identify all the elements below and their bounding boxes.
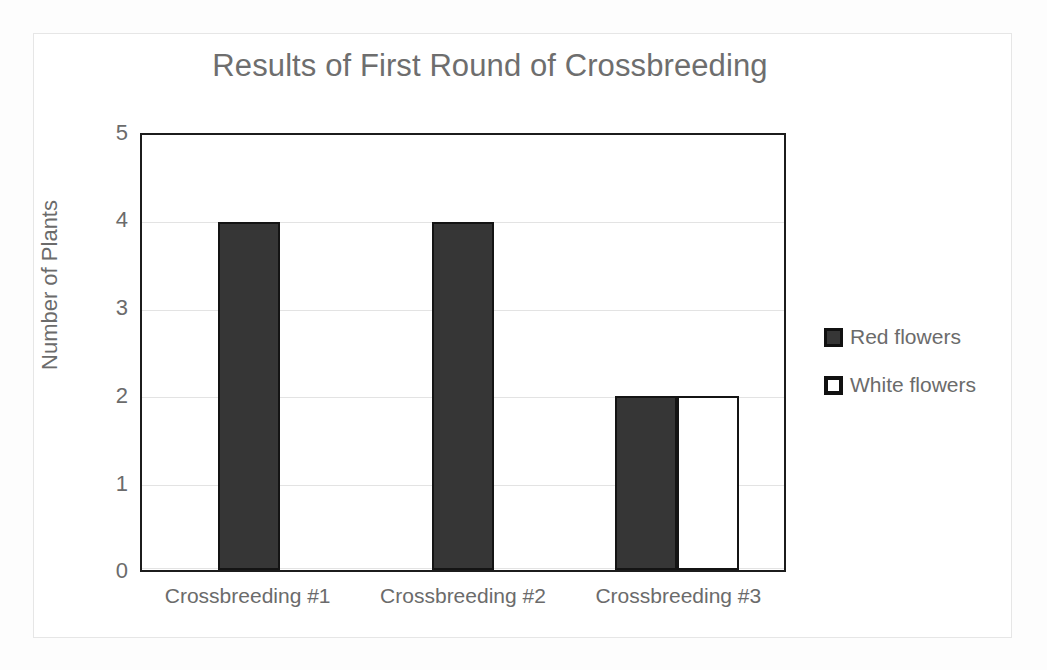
legend-label-red-flowers: Red flowers [850, 325, 961, 349]
chart-legend: Red flowers White flowers [824, 325, 976, 397]
bar-red-1 [218, 222, 280, 570]
bar-white-3 [677, 396, 739, 570]
outlined-white-square-icon [824, 376, 843, 395]
bars-layer [142, 135, 784, 570]
chart-canvas: Results of First Round of Crossbreeding … [0, 0, 1047, 670]
y-tick-0: 0 [88, 558, 128, 584]
y-tick-2: 2 [88, 383, 128, 409]
legend-item-red-flowers[interactable]: Red flowers [824, 325, 976, 349]
y-tick-5: 5 [88, 120, 128, 146]
plot-area [140, 133, 786, 572]
bar-red-2 [432, 222, 494, 570]
x-label-crossbreeding-1: Crossbreeding #1 [140, 584, 355, 608]
legend-item-white-flowers[interactable]: White flowers [824, 373, 976, 397]
legend-label-white-flowers: White flowers [850, 373, 976, 397]
chart-title: Results of First Round of Crossbreeding [140, 48, 840, 84]
bar-red-3 [615, 396, 677, 570]
x-axis-labels: Crossbreeding #1 Crossbreeding #2 Crossb… [140, 584, 786, 608]
y-tick-3: 3 [88, 295, 128, 321]
y-tick-4: 4 [88, 207, 128, 233]
y-tick-1: 1 [88, 471, 128, 497]
filled-dark-square-icon [824, 328, 843, 347]
y-axis-title: Number of Plants [37, 175, 63, 395]
x-label-crossbreeding-2: Crossbreeding #2 [355, 584, 570, 608]
x-label-crossbreeding-3: Crossbreeding #3 [571, 584, 786, 608]
